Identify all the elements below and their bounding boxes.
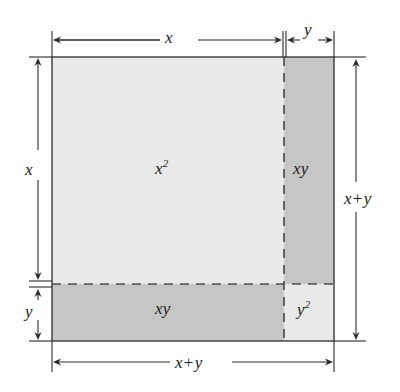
label-region-xy-right: xy [293,160,309,177]
label-region-x-squared: x2 [155,158,169,177]
dimension-right-term-2: y [364,189,372,208]
dimension-right-term-1: x [344,189,352,208]
label-dimension-left-y: y [25,303,33,320]
dimension-top-y-text: y [304,20,312,39]
dimension-bottom-plus-sign: + [183,353,195,372]
label-dimension-bottom-x-plus-y: x+y [175,354,203,371]
label-y-squared-exponent: 2 [305,298,311,310]
label-region-y-squared: y2 [297,299,311,318]
label-xy-bottom-base: xy [155,299,171,318]
area-model-diagram [0,0,400,392]
figure-container: x2 xy xy y2 x y x y x+y x+y [0,0,400,392]
label-region-xy-bottom: xy [155,300,171,317]
region-xy-right [284,57,334,284]
label-x-squared-base: x [155,159,163,178]
label-dimension-left-x: x [25,161,33,178]
label-x-squared-exponent: 2 [163,157,169,169]
label-dimension-right-x-plus-y: x+y [344,190,372,207]
dimension-bottom-term-2: y [195,353,203,372]
dimension-bottom-term-1: x [175,353,183,372]
dimension-left-x-text: x [25,160,33,179]
label-y-squared-base: y [297,300,305,319]
dimension-left-y-text: y [25,302,33,321]
label-dimension-top-x: x [165,29,173,46]
label-dimension-top-y: y [304,21,312,38]
dimension-top-x-text: x [165,28,173,47]
label-xy-right-base: xy [293,159,309,178]
dimension-right-plus-sign: + [352,189,364,208]
